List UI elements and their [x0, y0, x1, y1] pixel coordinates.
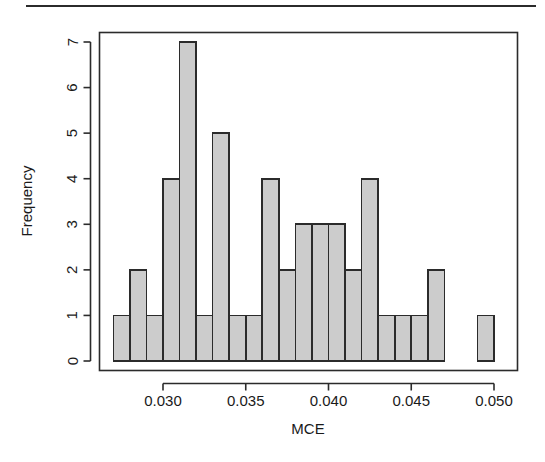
histogram-bar: [477, 315, 494, 361]
histogram-bar: [312, 224, 329, 361]
y-axis: [84, 42, 91, 361]
histogram-bar: [180, 42, 197, 361]
histogram-bar: [395, 315, 412, 361]
histogram-bar: [295, 224, 312, 361]
histogram-figure: 0.0300.0350.0400.0450.050 01234567 MCE F…: [0, 0, 545, 462]
histogram-bar: [130, 270, 147, 361]
x-axis-tick-label: 0.050: [475, 392, 513, 409]
y-axis-tick-label: 6: [64, 83, 81, 91]
x-axis-tick-label: 0.040: [310, 392, 348, 409]
histogram-bar: [345, 270, 362, 361]
y-axis-title: Frequency: [18, 165, 35, 236]
histogram-bar: [196, 315, 213, 361]
x-axis-tick-labels: 0.0300.0350.0400.0450.050: [144, 392, 513, 409]
histogram-plot: 0.0300.0350.0400.0450.050 01234567 MCE F…: [0, 0, 545, 462]
histogram-bar: [213, 133, 230, 361]
histogram-bar: [163, 179, 180, 361]
histogram-bar: [329, 224, 346, 361]
x-axis-tick-label: 0.030: [144, 392, 182, 409]
x-axis-title: MCE: [291, 420, 324, 437]
y-axis-tick-labels: 01234567: [64, 38, 81, 365]
y-axis-tick-label: 1: [64, 311, 81, 319]
histogram-bar: [229, 315, 246, 361]
histogram-bar: [362, 179, 379, 361]
histogram-bar: [113, 315, 130, 361]
histogram-bars: [113, 42, 494, 361]
histogram-bar: [378, 315, 395, 361]
y-axis-tick-label: 7: [64, 38, 81, 46]
x-axis: [163, 384, 494, 391]
y-axis-tick-label: 4: [64, 175, 81, 183]
histogram-bar: [262, 179, 279, 361]
y-axis-tick-label: 0: [64, 357, 81, 365]
x-axis-tick-label: 0.045: [392, 392, 430, 409]
y-axis-tick-label: 2: [64, 266, 81, 274]
histogram-bar: [428, 270, 445, 361]
y-axis-tick-label: 5: [64, 129, 81, 137]
histogram-bar: [146, 315, 163, 361]
histogram-bar: [246, 315, 263, 361]
x-axis-tick-label: 0.035: [227, 392, 265, 409]
histogram-bar: [279, 270, 296, 361]
histogram-bar: [411, 315, 428, 361]
y-axis-tick-label: 3: [64, 220, 81, 228]
